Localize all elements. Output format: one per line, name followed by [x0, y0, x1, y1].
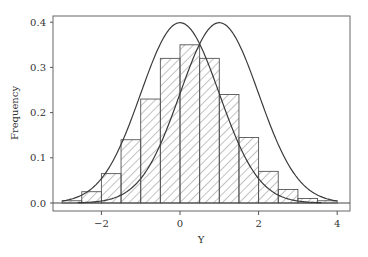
histogram-bar: [259, 171, 279, 203]
y-axis: 0.00.10.20.30.4: [30, 17, 53, 209]
y-axis-label: Frequency: [9, 86, 20, 140]
histogram-bar: [200, 58, 220, 203]
histogram-bar: [219, 95, 239, 203]
x-axis: −2024: [94, 211, 340, 229]
histogram-bar: [239, 137, 259, 203]
x-tick-label: 4: [334, 218, 340, 229]
histogram-bars: [62, 45, 337, 203]
y-tick-label: 0.1: [30, 152, 46, 163]
histogram-chart: 0.00.10.20.30.4 −2024 Y Frequency: [0, 0, 368, 257]
x-tick-label: 2: [255, 218, 261, 229]
y-tick-label: 0.0: [30, 198, 46, 209]
x-tick-label: −2: [94, 218, 109, 229]
x-tick-label: 0: [177, 218, 183, 229]
y-tick-label: 0.2: [30, 107, 46, 118]
y-tick-label: 0.3: [30, 62, 46, 73]
y-tick-label: 0.4: [30, 17, 46, 28]
histogram-bar: [160, 58, 180, 203]
x-axis-label: Y: [197, 234, 205, 245]
